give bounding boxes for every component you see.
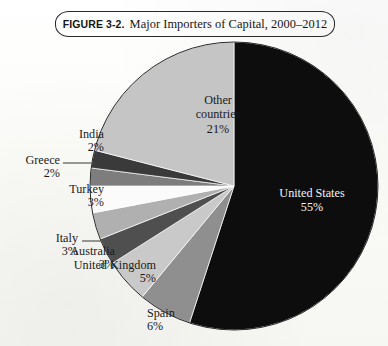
italy-name: Italy bbox=[56, 231, 78, 245]
united-kingdom-name: United Kingdom bbox=[74, 258, 156, 272]
slice-label-india: India 2% bbox=[8, 128, 104, 155]
india-name: India bbox=[79, 127, 104, 141]
turkey-percent: 3% bbox=[22, 196, 104, 209]
united-kingdom-percent: 5% bbox=[32, 272, 156, 285]
slice-label-turkey: Turkey 3% bbox=[22, 183, 104, 210]
other-countries-percent: 21% bbox=[207, 122, 229, 136]
united-states-name: United States bbox=[279, 186, 344, 200]
other-countries-line2: countries bbox=[196, 107, 241, 121]
other-countries-line1: Other bbox=[204, 93, 232, 107]
slice-label-other-countries: Other countries 21% bbox=[175, 93, 261, 136]
slice-label-greece: Greece 2% bbox=[0, 154, 60, 181]
pie-chart: Other countries 21% United States 55% In… bbox=[0, 0, 388, 346]
greece-percent: 2% bbox=[0, 167, 60, 180]
spain-percent: 6% bbox=[147, 320, 207, 333]
united-states-percent: 55% bbox=[301, 200, 323, 214]
spain-name: Spain bbox=[147, 306, 175, 320]
slice-label-spain: Spain 6% bbox=[147, 307, 207, 334]
turkey-name: Turkey bbox=[69, 182, 104, 196]
slice-label-united-states: United States 55% bbox=[262, 186, 362, 215]
slice-label-united-kingdom: United Kingdom 5% bbox=[32, 259, 156, 286]
australia-name: Australia bbox=[70, 244, 115, 258]
greece-name: Greece bbox=[26, 153, 61, 167]
